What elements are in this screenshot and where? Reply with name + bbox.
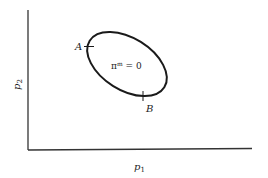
x-axis <box>28 149 252 151</box>
curve-label: πm = 0 <box>111 60 142 71</box>
diagram-svg: A B πm = 0 p1 p2 <box>0 0 268 178</box>
x-axis-label: p1 <box>134 161 145 174</box>
point-a-label: A <box>74 41 82 52</box>
diagram-canvas: A B πm = 0 p1 p2 <box>0 0 268 178</box>
point-b-label: B <box>145 103 153 114</box>
y-axis-label: p2 <box>11 79 24 90</box>
